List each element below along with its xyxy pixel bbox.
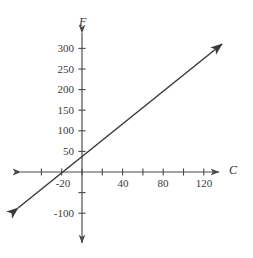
y-tick-label: -100 (43, 208, 74, 219)
x-tick-label: 120 (191, 178, 217, 189)
x-axis (21, 168, 219, 175)
y-tick-label: 200 (49, 84, 74, 95)
y-tick-label: 250 (49, 64, 74, 75)
y-tick-label: 50 (49, 146, 74, 157)
y-axis (78, 33, 85, 243)
x-tick-label: 80 (150, 178, 176, 189)
y-tick-label: 150 (49, 105, 74, 116)
y-tick-label: 100 (49, 125, 74, 136)
y-tick-label: 300 (49, 43, 74, 54)
x-tick-label: 40 (110, 178, 136, 189)
x-axis-label: C (229, 164, 237, 176)
y-axis-label: F (79, 16, 86, 28)
chart-figure: 300 250 200 150 100 50 -100 -20 40 80 12… (0, 0, 253, 258)
x-tick-label: -20 (50, 178, 76, 189)
chart-canvas (0, 0, 253, 258)
